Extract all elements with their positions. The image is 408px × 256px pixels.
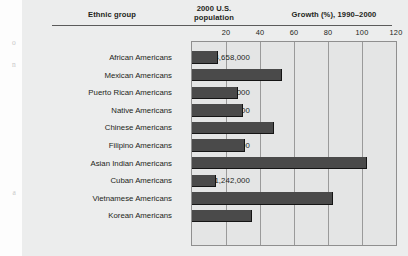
bar-track	[191, 137, 397, 155]
column-header-ethnic-group: Ethnic group	[52, 10, 172, 19]
bar-track	[191, 190, 397, 208]
growth-bar	[192, 210, 252, 222]
growth-bar	[192, 69, 282, 81]
edge-fragment: o	[2, 38, 16, 47]
growth-bar	[192, 175, 216, 187]
category-label: Puerto Rican Americans	[30, 84, 172, 102]
x-tick-label: 60	[290, 28, 299, 37]
category-label: Cuban Americans	[30, 172, 172, 190]
category-label: African Americans	[30, 49, 172, 67]
x-tick-label: 20	[222, 28, 231, 37]
x-tick-label: 100	[356, 28, 369, 37]
chart-row: Korean Americans1,077,000	[22, 207, 408, 225]
growth-bar	[192, 157, 367, 169]
growth-bar	[192, 139, 245, 151]
x-axis-tick-labels: 20406080100120	[22, 28, 408, 40]
bar-track	[191, 102, 397, 120]
growth-bar	[192, 104, 243, 116]
chart-row: African Americans34,658,000	[22, 49, 408, 67]
category-label: Filipino Americans	[30, 137, 172, 155]
x-tick-label: 120	[390, 28, 403, 37]
chart-row: Native Americans2,476,000	[22, 102, 408, 120]
bar-track	[191, 155, 397, 173]
growth-bar	[192, 51, 218, 63]
header-divider	[52, 25, 392, 26]
edge-fragment: a	[2, 188, 16, 197]
category-label: Chinese Americans	[30, 119, 172, 137]
category-label: Korean Americans	[30, 207, 172, 225]
bar-track	[191, 49, 397, 67]
growth-bar-chart: Ethnic group 2000 U.S. population Growth…	[22, 0, 408, 256]
growth-bar	[192, 87, 238, 99]
bar-track	[191, 67, 397, 85]
category-label: Asian Indian Americans	[30, 155, 172, 173]
bar-track	[191, 207, 397, 225]
x-tick-label: 40	[256, 28, 265, 37]
x-tick-label: 80	[324, 28, 333, 37]
column-header-population-line1: 2000 U.S.	[178, 4, 250, 13]
figure-page: o n a Ethnic group 2000 U.S. population …	[0, 0, 408, 256]
growth-bar	[192, 192, 333, 204]
column-header-population: 2000 U.S. population	[178, 4, 250, 22]
category-label: Native Americans	[30, 102, 172, 120]
chart-row: Mexican Americans20,641,000	[22, 67, 408, 85]
bar-track	[191, 119, 397, 137]
column-header-population-line2: population	[178, 13, 250, 22]
chart-row: Filipino Americans1,850,000	[22, 137, 408, 155]
column-header-growth: Growth (%), 1990–2000	[260, 10, 408, 19]
category-label: Vietnamese Americans	[30, 190, 172, 208]
bar-track	[191, 172, 397, 190]
bar-track	[191, 84, 397, 102]
chart-row: Chinese Americans2,433,000	[22, 119, 408, 137]
category-label: Mexican Americans	[30, 67, 172, 85]
chart-row: Vietnamese Americans1,123,000	[22, 190, 408, 208]
table-header: Ethnic group 2000 U.S. population Growth…	[22, 0, 408, 26]
chart-row: Cuban Americans1,242,000	[22, 172, 408, 190]
chart-row: Asian Indian Americans1,679,000	[22, 155, 408, 173]
growth-bar	[192, 122, 274, 134]
edge-fragment: n	[2, 60, 16, 69]
chart-rows: African Americans34,658,000Mexican Ameri…	[22, 41, 408, 246]
chart-row: Puerto Rican Americans3,406,000	[22, 84, 408, 102]
